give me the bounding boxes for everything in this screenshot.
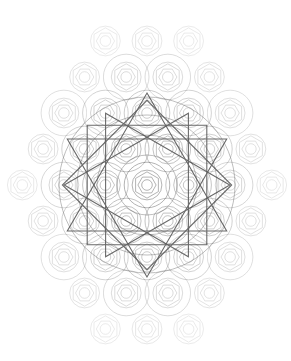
cluster-outer-circle bbox=[207, 90, 253, 136]
cluster-hexagon bbox=[94, 28, 117, 54]
cluster-hexagon bbox=[136, 100, 159, 126]
cluster-circle bbox=[195, 62, 225, 92]
lattice-cluster bbox=[174, 314, 204, 344]
cluster-inner-circle bbox=[204, 288, 215, 299]
cluster-circle bbox=[153, 62, 183, 92]
cluster-circle bbox=[28, 206, 58, 236]
cluster-hexagon bbox=[219, 100, 242, 126]
cluster-inner-circle bbox=[142, 180, 153, 191]
cluster-hexagon bbox=[198, 64, 221, 90]
lattice-cluster bbox=[207, 234, 253, 280]
cluster-circle bbox=[111, 62, 141, 92]
cluster-circle bbox=[215, 242, 245, 272]
lattice-cluster bbox=[103, 54, 149, 100]
sacred-geometry-artwork bbox=[0, 0, 291, 361]
cluster-outer-circle bbox=[103, 270, 149, 316]
cluster-hexagon bbox=[136, 244, 159, 270]
cluster-inner-circle bbox=[246, 144, 257, 155]
lattice-cluster bbox=[132, 26, 162, 56]
lattice-cluster bbox=[91, 314, 121, 344]
cluster-hexagon bbox=[94, 316, 117, 342]
cluster-hexagon bbox=[52, 100, 75, 126]
cluster-hexagon bbox=[32, 208, 55, 234]
lattice-cluster bbox=[70, 278, 100, 308]
center-circle bbox=[117, 155, 177, 215]
cluster-hexagon bbox=[219, 244, 242, 270]
cluster-hexagon bbox=[136, 316, 159, 342]
cluster-circle bbox=[7, 170, 37, 200]
lattice-cluster bbox=[236, 206, 266, 236]
cluster-circle bbox=[153, 278, 183, 308]
cluster-outer-circle bbox=[207, 234, 253, 280]
cluster-inner-circle bbox=[121, 288, 132, 299]
cluster-circle bbox=[132, 26, 162, 56]
cluster-hexagon bbox=[115, 280, 138, 306]
lattice-cluster bbox=[132, 314, 162, 344]
cluster-hexagon bbox=[240, 208, 263, 234]
cluster-inner-circle bbox=[59, 252, 70, 263]
lattice-cluster bbox=[174, 26, 204, 56]
cluster-circle bbox=[132, 170, 162, 200]
lattice-cluster bbox=[236, 134, 266, 164]
lattice-cluster bbox=[145, 270, 191, 316]
hex-lattice bbox=[7, 26, 286, 344]
lattice-cluster bbox=[145, 54, 191, 100]
cluster-inner-circle bbox=[142, 108, 153, 119]
cluster-circle bbox=[236, 206, 266, 236]
cluster-inner-circle bbox=[163, 288, 174, 299]
star-square-diamond bbox=[62, 100, 231, 269]
cluster-inner-circle bbox=[38, 216, 49, 227]
lattice-cluster bbox=[195, 278, 225, 308]
cluster-hexagon bbox=[52, 244, 75, 270]
lattice-cluster bbox=[207, 90, 253, 136]
cluster-inner-circle bbox=[163, 72, 174, 83]
cluster-circle bbox=[70, 62, 100, 92]
cluster-circle bbox=[215, 98, 245, 128]
cluster-inner-circle bbox=[38, 144, 49, 155]
cluster-hexagon bbox=[177, 28, 200, 54]
cluster-inner-circle bbox=[266, 180, 277, 191]
cluster-circle bbox=[111, 278, 141, 308]
cluster-outer-circle bbox=[124, 162, 170, 208]
cluster-hexagon bbox=[156, 64, 179, 90]
cluster-hexagon bbox=[177, 316, 200, 342]
cluster-hexagon bbox=[115, 64, 138, 90]
cluster-inner-circle bbox=[225, 108, 236, 119]
cluster-inner-circle bbox=[121, 72, 132, 83]
cluster-circle bbox=[132, 242, 162, 272]
cluster-circle bbox=[91, 26, 121, 56]
cluster-outer-circle bbox=[41, 90, 87, 136]
cluster-circle bbox=[132, 314, 162, 344]
cluster-inner-circle bbox=[79, 288, 90, 299]
cluster-inner-circle bbox=[183, 324, 194, 335]
cluster-inner-circle bbox=[246, 216, 257, 227]
cluster-inner-circle bbox=[183, 36, 194, 47]
cluster-circle bbox=[132, 98, 162, 128]
cluster-circle bbox=[49, 242, 79, 272]
lattice-cluster bbox=[41, 234, 87, 280]
cluster-hexagon bbox=[156, 280, 179, 306]
lattice-cluster bbox=[195, 62, 225, 92]
cluster-outer-circle bbox=[103, 54, 149, 100]
cluster-circle bbox=[28, 134, 58, 164]
cluster-circle bbox=[49, 98, 79, 128]
cluster-hexagon bbox=[136, 172, 159, 198]
cluster-circle bbox=[195, 278, 225, 308]
cluster-inner-circle bbox=[100, 36, 111, 47]
cluster-inner-circle bbox=[204, 72, 215, 83]
cluster-hexagon bbox=[73, 136, 96, 162]
cluster-inner-circle bbox=[59, 108, 70, 119]
cluster-inner-circle bbox=[142, 252, 153, 263]
lattice-cluster bbox=[91, 26, 121, 56]
cluster-hexagon bbox=[136, 28, 159, 54]
lattice-cluster bbox=[7, 170, 37, 200]
cluster-circle bbox=[174, 26, 204, 56]
lattice-cluster bbox=[28, 206, 58, 236]
cluster-outer-circle bbox=[145, 270, 191, 316]
cluster-inner-circle bbox=[142, 324, 153, 335]
cluster-circle bbox=[174, 314, 204, 344]
cluster-circle bbox=[236, 134, 266, 164]
center-circle bbox=[97, 135, 197, 235]
cluster-circle bbox=[70, 278, 100, 308]
cluster-hexagon bbox=[198, 136, 221, 162]
